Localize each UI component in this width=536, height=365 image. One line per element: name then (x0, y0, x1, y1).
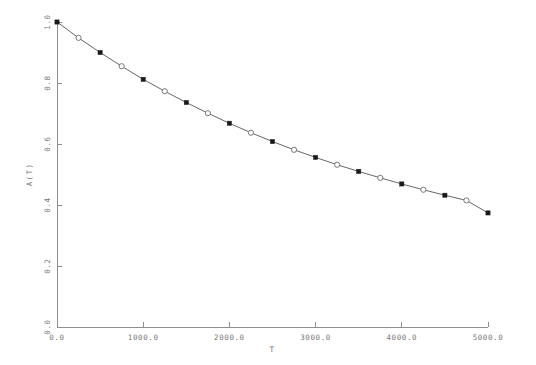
data-point-square (141, 77, 145, 81)
data-point-square (400, 182, 404, 186)
data-point-circle (421, 187, 426, 192)
data-point-circle (464, 198, 469, 203)
data-point-square (486, 211, 490, 215)
x-tick-label: 1000.0 (128, 333, 159, 342)
data-point-circle (162, 89, 167, 94)
x-tick-label: 5000.0 (473, 333, 504, 342)
y-tick-label: 0.2 (43, 258, 52, 273)
axis-titles: TA(T) (25, 163, 275, 354)
plot-area: 0.01000.02000.03000.04000.05000.00.00.20… (0, 0, 536, 365)
y-tick-label: 0.6 (43, 136, 52, 151)
tick-labels: 0.01000.02000.03000.04000.05000.00.00.20… (43, 14, 503, 342)
x-tick-label: 2000.0 (214, 333, 245, 342)
data-point-square (98, 50, 102, 54)
data-point-circle (76, 35, 81, 40)
x-tick-label: 4000.0 (386, 333, 417, 342)
y-tick-label: 0.0 (43, 319, 52, 334)
data-point-circle (119, 64, 124, 69)
y-tick-label: 0.4 (43, 197, 52, 212)
data-point-square (314, 155, 318, 159)
y-axis-title: A(T) (25, 163, 34, 187)
y-tick-label: 1.0 (43, 14, 52, 29)
series-line (57, 22, 488, 213)
data-point-square (357, 169, 361, 173)
data-point-square (55, 20, 59, 24)
data-point-circle (335, 162, 340, 167)
x-tick-label: 3000.0 (300, 333, 331, 342)
data-point-square (270, 139, 274, 143)
data-point-circle (248, 130, 253, 135)
data-series (55, 20, 490, 215)
data-point-square (227, 121, 231, 125)
data-point-circle (378, 175, 383, 180)
y-tick-label: 0.8 (43, 75, 52, 90)
data-point-square (443, 193, 447, 197)
data-point-circle (205, 111, 210, 116)
data-point-circle (291, 147, 296, 152)
data-point-square (184, 100, 188, 104)
x-axis-title: T (270, 345, 276, 354)
chart-figure: 0.01000.02000.03000.04000.05000.00.00.20… (0, 0, 536, 365)
